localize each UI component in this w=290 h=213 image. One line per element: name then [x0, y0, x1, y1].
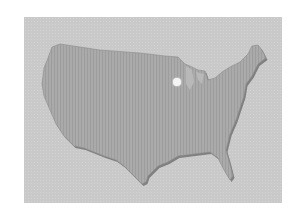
location-marker[interactable]: [173, 78, 181, 86]
us-map: [0, 0, 290, 213]
us-land: [42, 44, 266, 184]
